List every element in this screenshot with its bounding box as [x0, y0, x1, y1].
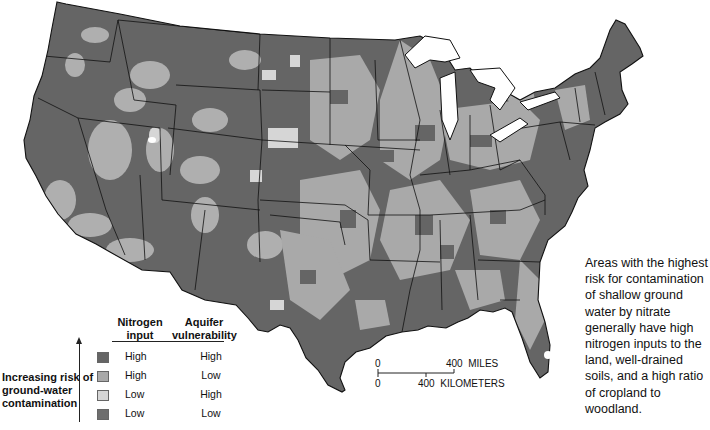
legend-header-aquifer-line1: Aquifer — [172, 316, 236, 329]
map-annotation: Areas with the highest risk for contamin… — [585, 255, 710, 417]
scale-bar-graphic — [378, 369, 454, 377]
risk-axis-label: Increasing risk of ground-water contamin… — [2, 371, 93, 410]
legend-nitrogen-value: High — [125, 350, 165, 362]
legend-row: Low Low — [97, 407, 247, 421]
risk-label-line2: ground-water — [2, 384, 93, 397]
legend-header-nitrogen: Nitrogen input — [110, 316, 170, 342]
legend-row: High Low — [97, 369, 247, 383]
risk-label-line1: Increasing risk of — [2, 371, 93, 384]
legend-aquifer-value: Low — [181, 407, 241, 419]
legend-nitrogen-value: High — [125, 369, 165, 381]
legend-row: Low High — [97, 388, 247, 402]
risk-label-line3: contamination — [2, 397, 93, 410]
scale-km-label: 400 KILOMETERS — [418, 378, 505, 389]
legend-aquifer-value: High — [181, 388, 241, 400]
legend-swatch-low-low — [97, 409, 109, 420]
legend-swatch-low-high — [97, 390, 109, 401]
legend-header-aquifer: Aquifer vulnerability — [172, 316, 236, 342]
scale-km-zero: 0 — [375, 378, 381, 389]
legend-nitrogen-value: Low — [125, 407, 165, 419]
legend-swatch-high-low — [97, 371, 109, 382]
legend-aquifer-value: Low — [181, 369, 241, 381]
legend-header-nitrogen-line1: Nitrogen — [110, 316, 170, 329]
legend-aquifer-value: High — [181, 350, 241, 362]
scale-miles-label: 400 MILES — [446, 358, 498, 369]
legend-swatch-high-high — [97, 352, 109, 363]
scale-miles-zero: 0 — [375, 358, 381, 369]
legend-row: High High — [97, 350, 247, 364]
legend-divider — [112, 341, 224, 342]
legend-nitrogen-value: Low — [125, 388, 165, 400]
